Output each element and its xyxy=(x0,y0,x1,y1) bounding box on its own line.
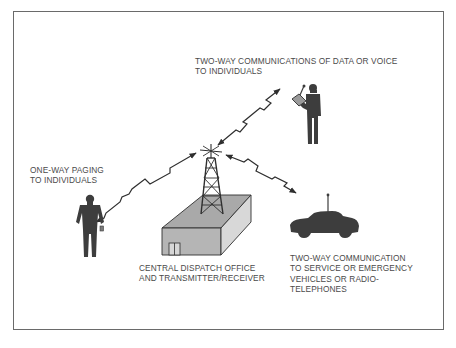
link-tower-to-vehicle xyxy=(226,155,296,193)
label-line: TWO-WAY COMMUNICATIONS OF DATA OR VOICE xyxy=(195,56,397,66)
label-line: VEHICLES OR RADIO- xyxy=(290,274,413,284)
label-two-way-vehicles: TWO-WAY COMMUNICATION TO SERVICE OR EMER… xyxy=(290,253,413,295)
label-line: ONE-WAY PAGING xyxy=(30,165,104,175)
label-line: CENTRAL DISPATCH OFFICE xyxy=(139,263,265,273)
label-two-way-data-voice: TWO-WAY COMMUNICATIONS OF DATA OR VOICE … xyxy=(195,56,397,77)
label-central-dispatch: CENTRAL DISPATCH OFFICE AND TRANSMITTER/… xyxy=(139,263,265,284)
dispatch-office-building-icon xyxy=(162,195,251,255)
car-with-antenna-icon xyxy=(290,194,359,238)
link-tower-to-pager-user xyxy=(96,153,196,222)
person-with-pager-icon xyxy=(76,195,104,257)
label-line: TO INDIVIDUALS xyxy=(195,66,397,76)
label-line: TO SERVICE OR EMERGENCY xyxy=(290,263,413,273)
label-line: TWO-WAY COMMUNICATION xyxy=(290,253,413,263)
label-line: AND TRANSMITTER/RECEIVER xyxy=(139,273,265,283)
person-with-handheld-terminal-icon xyxy=(292,84,321,144)
link-tower-to-terminal-user xyxy=(218,89,280,145)
label-one-way-paging: ONE-WAY PAGING TO INDIVIDUALS xyxy=(30,165,104,186)
label-line: TO INDIVIDUALS xyxy=(30,175,104,185)
label-line: TELEPHONES xyxy=(290,284,413,294)
